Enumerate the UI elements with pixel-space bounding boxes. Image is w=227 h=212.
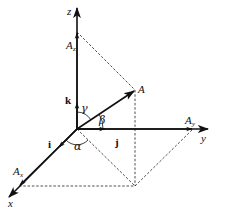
dash-origin-to-corner [77,129,135,186]
beta-label: β [98,114,105,127]
y-axis-label: y [200,132,206,144]
vector-a-label: A [137,83,145,95]
svg-text:y: y [191,120,196,128]
z-axis-label: z [66,5,72,17]
j-label: j [114,136,119,148]
labels: z y x k j i A A z A y A x γ β α [7,5,206,209]
k-label: k [65,94,72,106]
dash-corner-to-ay [135,129,193,186]
vector-diagram: z y x k j i A A z A y A x γ β α [0,0,227,212]
x-axis-label: x [7,197,13,209]
svg-text:A: A [65,39,73,51]
alpha-label: α [74,140,82,153]
svg-text:z: z [72,45,76,53]
gamma-label: γ [81,102,88,115]
svg-text:x: x [19,171,24,179]
axes [9,8,208,197]
az-label: A z [65,39,76,53]
i-label: i [48,138,51,150]
ay-label: A y [184,114,196,128]
svg-text:A: A [184,114,192,126]
dash-az-to-a [77,32,135,90]
svg-text:A: A [12,165,20,177]
ax-label: A x [12,165,24,179]
